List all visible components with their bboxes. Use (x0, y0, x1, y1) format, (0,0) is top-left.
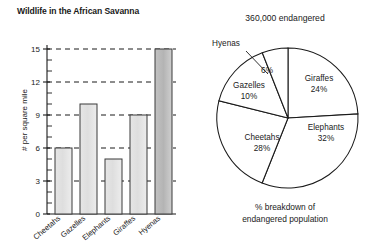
bar-giraffes[interactable] (130, 115, 147, 214)
y-tick-15: 15 (31, 45, 40, 54)
pie-slice-giraffes[interactable] (288, 48, 358, 118)
bar-elephants[interactable] (105, 159, 122, 214)
bar-hyenas[interactable] (155, 49, 172, 214)
x-label-elephants: Elephants (81, 214, 113, 243)
bar-chart-panel: Wildlife in the African Savanna # per sq… (0, 0, 196, 251)
y-tick-12: 12 (31, 78, 40, 87)
pie-label-gazelles: Gazelles (233, 81, 265, 90)
y-tick-6: 6 (36, 144, 41, 153)
pie-label-elephants: Elephants (308, 123, 344, 132)
y-tick-3: 3 (36, 177, 41, 186)
bar-x-tick-labels: Cheetahs Gazelles Elephants Giraffes Hye… (32, 214, 163, 243)
x-label-giraffes: Giraffes (111, 214, 137, 238)
pie-pct-elephants: 32% (318, 134, 334, 143)
pie-label-giraffes: Giraffes (305, 74, 334, 83)
bar-chart-svg: # per square mile (0, 0, 196, 251)
bar-series (55, 49, 172, 214)
bar-y-axis-title: # per square mile (20, 89, 29, 151)
pie-pct-hyenas: 6% (261, 66, 273, 75)
x-label-hyenas: Hyenas (137, 214, 163, 238)
pie-caption-line-1: % breakdown of (196, 202, 374, 214)
pie-label-cheetahs: Cheetahs (244, 133, 279, 142)
pie-label-hyenas: Hyenas (212, 39, 240, 48)
bar-cheetahs[interactable] (55, 148, 72, 214)
figure-root: Wildlife in the African Savanna # per sq… (0, 0, 374, 251)
y-tick-9: 9 (36, 111, 41, 120)
pie-chart-caption: % breakdown of endangered population (196, 202, 374, 225)
y-tick-0: 0 (36, 210, 41, 219)
pie-pct-giraffes: 24% (311, 85, 327, 94)
pie-chart-panel: 360,000 endangered Giraffes 24% Elephant… (196, 0, 374, 251)
pie-caption-line-2: endangered population (196, 214, 374, 226)
bar-gazelles[interactable] (80, 104, 97, 214)
pie-pct-gazelles: 10% (241, 92, 257, 101)
bar-y-tick-labels: 15 12 9 6 3 0 (31, 45, 40, 219)
pie-pct-cheetahs: 28% (254, 144, 270, 153)
